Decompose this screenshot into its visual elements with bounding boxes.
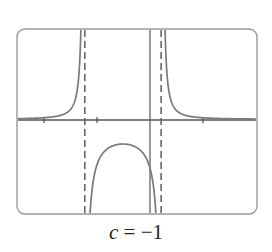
curve-left-branch xyxy=(18,0,85,119)
caption-variable: c xyxy=(109,220,118,244)
graph-plot xyxy=(0,0,272,220)
curve-right-branch xyxy=(161,0,256,119)
caption-value: −1 xyxy=(141,220,163,244)
caption-equals: = xyxy=(118,220,140,244)
curve-middle-branch xyxy=(86,144,160,220)
chart-caption: c = −1 xyxy=(0,220,272,245)
plot-frame xyxy=(17,29,257,214)
